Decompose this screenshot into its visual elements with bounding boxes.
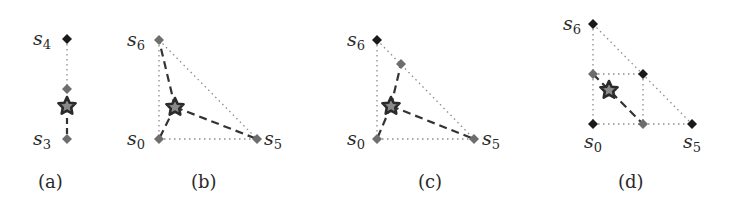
dashed-edge	[159, 40, 175, 107]
caption-d: (d)	[618, 171, 644, 192]
vertex-s6-icon	[154, 35, 164, 45]
label-s5: s5	[264, 127, 282, 152]
label-s6: s6	[127, 28, 145, 53]
star-point-icon	[166, 98, 183, 115]
vertex-s4-icon	[62, 34, 72, 44]
vertex-s3-icon	[62, 134, 72, 144]
label-s4: s4	[33, 27, 51, 52]
caption-a: (a)	[38, 171, 63, 192]
dashed-edge	[391, 106, 474, 139]
label-s0: s0	[127, 127, 145, 152]
label-s0: s0	[347, 127, 365, 152]
vertex-s5-icon	[469, 134, 479, 144]
dashed-edge	[593, 74, 643, 124]
label-s6: s6	[347, 28, 365, 53]
vertex-s6-icon	[588, 19, 598, 29]
vertex-s6-icon	[372, 35, 382, 45]
vertex-s0-icon	[372, 134, 382, 144]
caption-b: (b)	[191, 171, 217, 192]
star-point-icon	[382, 97, 399, 114]
panel-c: s6 s0 s5 (c)	[347, 28, 500, 192]
panel-b: s6 s0 s5 (b)	[127, 28, 282, 192]
vertex-midpoint-icon	[396, 59, 406, 69]
vertex-s5-icon	[252, 134, 262, 144]
label-s6: s6	[563, 12, 581, 37]
dotted-edge	[159, 40, 257, 139]
panel-a: s4 s3 (a)	[33, 27, 76, 192]
label-s0: s0	[584, 130, 602, 155]
caption-c: (c)	[418, 171, 442, 192]
panel-d: s6 s0 s5 (d)	[563, 12, 701, 192]
simplex-diagram: s4 s3 (a) s6 s0 s5 (b) s6 s0 s5 (c)	[0, 0, 736, 200]
label-s5: s5	[482, 127, 500, 152]
label-s3: s3	[33, 127, 51, 152]
vertex-s0-icon	[588, 119, 598, 129]
star-point-icon	[58, 97, 75, 114]
dashed-edge	[175, 107, 257, 139]
label-s5: s5	[683, 130, 701, 155]
vertex-s0-icon	[154, 134, 164, 144]
vertex-midpoint-icon	[62, 84, 72, 94]
dotted-edge	[377, 40, 474, 139]
